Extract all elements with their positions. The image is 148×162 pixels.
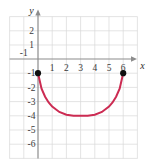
left-endpoint-dot (35, 70, 41, 76)
x-axis-arrow (131, 56, 137, 61)
coordinate-plane-figure: y x -1 1 2 3 4 5 6 2 1 -1 -2 -3 -4 -5 -6 (0, 0, 148, 162)
x-tick-label: 5 (107, 63, 112, 73)
x-tick-label: 3 (78, 63, 83, 73)
y-tick-label: -4 (28, 111, 36, 121)
x-tick-label: 4 (92, 63, 97, 73)
y-tick-label: 2 (29, 26, 34, 36)
y-tick-label: 1 (29, 40, 34, 50)
chart-svg: y x -1 1 2 3 4 5 6 2 1 -1 -2 -3 -4 -5 -6 (0, 0, 148, 162)
y-tick-labels: 2 1 -1 -2 -3 -4 -5 -6 (28, 26, 36, 149)
x-tick-label: 1 (50, 63, 55, 73)
y-tick-label: -2 (28, 83, 36, 93)
x-axis-label: x (139, 60, 145, 71)
x-tick-label: 2 (64, 63, 69, 73)
right-endpoint-dot (120, 70, 126, 76)
y-tick-label: -6 (28, 139, 36, 149)
y-axis-label: y (28, 5, 34, 16)
x-tick-label: -1 (20, 48, 28, 58)
x-tick-labels: -1 1 2 3 4 5 6 (20, 48, 126, 73)
y-tick-label: -1 (28, 68, 36, 78)
y-tick-label: -3 (28, 97, 36, 107)
axis-arrowheads (35, 10, 137, 62)
y-axis-arrow (35, 10, 40, 16)
y-tick-label: -5 (28, 125, 36, 135)
